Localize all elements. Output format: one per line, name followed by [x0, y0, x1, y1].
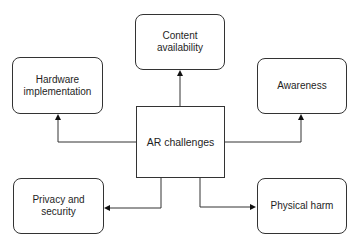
node-content-availability: Content availability	[135, 14, 225, 70]
edge-to-privacy-and-security	[108, 178, 161, 208]
node-awareness-label: Awareness	[277, 80, 326, 92]
edge-to-hardware-implementation	[58, 118, 136, 142]
edge-to-awareness	[225, 118, 301, 142]
arrowhead-awareness	[298, 114, 304, 120]
node-hardware-implementation-label: Hardware implementation	[24, 74, 92, 98]
node-ar-challenges: AR challenges	[136, 106, 225, 178]
arrowhead-hardware-implementation	[55, 114, 61, 120]
node-hardware-implementation: Hardware implementation	[12, 57, 103, 114]
node-content-availability-label: Content availability	[157, 30, 203, 54]
node-awareness: Awareness	[257, 58, 347, 114]
arrowhead-privacy-and-security	[104, 205, 110, 211]
arrowhead-content-availability	[177, 70, 183, 76]
node-privacy-and-security-label: Privacy and security	[32, 194, 84, 218]
node-physical-harm-label: Physical harm	[271, 200, 334, 212]
node-privacy-and-security: Privacy and security	[13, 178, 104, 234]
node-physical-harm: Physical harm	[257, 178, 347, 234]
arrowhead-physical-harm	[250, 204, 256, 210]
node-ar-challenges-label: AR challenges	[147, 136, 215, 148]
edge-to-physical-harm	[200, 178, 252, 207]
